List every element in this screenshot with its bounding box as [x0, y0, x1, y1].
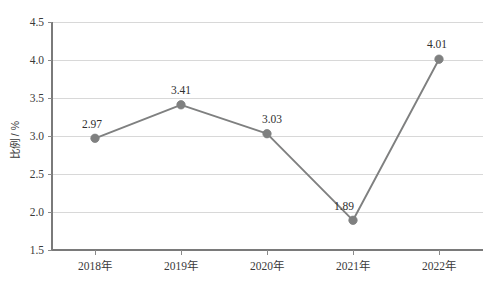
x-tick-label-2018: 2018年 [78, 259, 112, 272]
x-tick-label-2021: 2021年 [336, 259, 370, 272]
data-label-2018: 2.97 [82, 118, 102, 130]
data-point-2019 [177, 101, 185, 109]
y-tick-label-3.5: 3.5 [30, 92, 45, 104]
x-tick-label-2020: 2020年 [250, 259, 284, 272]
data-point-2022 [435, 55, 443, 63]
y-tick-label-2.0: 2.0 [30, 206, 45, 218]
data-label-2019: 3.41 [171, 84, 191, 96]
data-label-2021: 1.89 [334, 200, 354, 212]
chart-canvas: 4.5 4.0 3.5 3.0 2.5 2.0 1.5 2018年 2019年 … [0, 0, 498, 285]
data-label-2020: 3.03 [262, 113, 282, 125]
y-tick-label-4.5: 4.5 [30, 16, 45, 28]
y-axis-title: 比例 / % [9, 121, 21, 159]
data-point-2020 [263, 130, 271, 138]
x-tick-label-2019: 2019年 [164, 259, 198, 272]
data-point-2018 [91, 134, 99, 142]
x-tick-label-2022: 2022年 [422, 259, 456, 272]
data-point-2021 [349, 216, 357, 224]
data-label-2022: 4.01 [427, 38, 447, 50]
y-tick-label-1.5: 1.5 [30, 244, 45, 256]
line-chart-figure: 4.5 4.0 3.5 3.0 2.5 2.0 1.5 2018年 2019年 … [0, 0, 498, 285]
y-tick-label-4.0: 4.0 [30, 54, 45, 66]
y-tick-label-3.0: 3.0 [30, 130, 45, 142]
chart-background [0, 0, 498, 285]
y-tick-label-2.5: 2.5 [30, 168, 45, 180]
